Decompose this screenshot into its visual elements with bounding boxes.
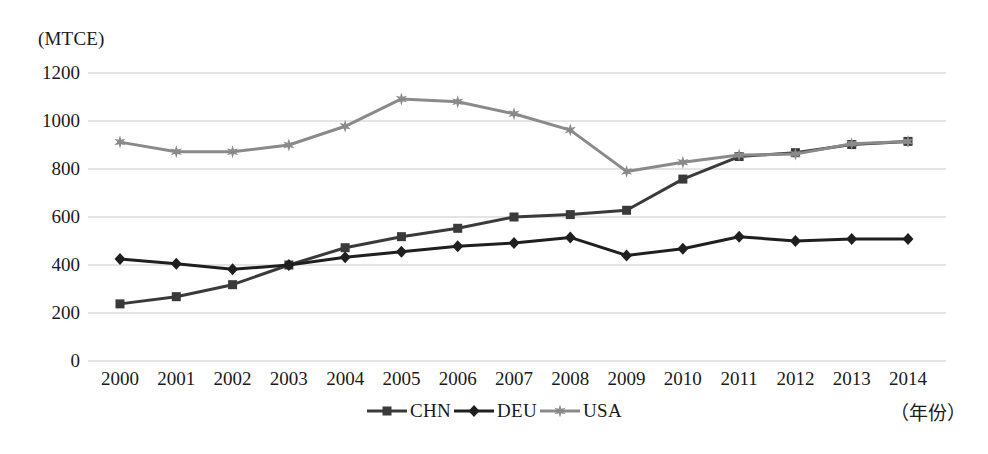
- diamond-marker-icon: [734, 231, 745, 243]
- diamond-marker-icon: [396, 246, 407, 258]
- square-marker-icon: [397, 232, 406, 241]
- square-marker-icon: [228, 280, 237, 289]
- series-usa: [114, 92, 913, 177]
- diamond-marker-icon: [846, 233, 857, 245]
- square-marker-icon: [566, 210, 575, 219]
- diamond-marker-icon: [621, 249, 632, 261]
- square-marker-icon: [172, 292, 181, 301]
- diamond-marker-icon: [903, 233, 914, 245]
- diamond-marker-icon: [790, 235, 801, 247]
- square-marker-icon: [453, 224, 462, 233]
- series-lines: [114, 92, 913, 308]
- series-line-chn: [120, 141, 908, 303]
- square-marker-icon: [116, 299, 125, 308]
- series-chn: [116, 137, 913, 308]
- line-chart: (MTCE) （年份） 120010008006004002000 200020…: [0, 0, 988, 454]
- series-deu: [115, 231, 914, 276]
- diamond-marker-icon: [171, 258, 182, 270]
- diamond-marker-icon: [565, 231, 576, 243]
- square-marker-icon: [510, 213, 519, 222]
- square-marker-icon: [341, 243, 350, 252]
- square-marker-icon: [622, 206, 631, 215]
- diamond-marker-icon: [677, 243, 688, 255]
- diamond-marker-icon: [509, 237, 520, 249]
- diamond-marker-icon: [340, 251, 351, 263]
- diamond-marker-icon: [452, 240, 463, 252]
- diamond-marker-icon: [115, 253, 126, 265]
- square-marker-icon: [678, 175, 687, 184]
- plot-area: [0, 0, 988, 454]
